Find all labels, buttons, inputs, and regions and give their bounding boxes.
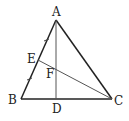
label-d: D xyxy=(52,102,62,116)
label-e: E xyxy=(27,52,36,66)
segment-ca xyxy=(56,20,112,99)
label-a: A xyxy=(51,5,61,19)
label-f: F xyxy=(46,67,54,81)
label-b: B xyxy=(8,93,17,107)
geometry-diagram: A B C D E F xyxy=(0,0,129,121)
label-c: C xyxy=(114,94,123,108)
